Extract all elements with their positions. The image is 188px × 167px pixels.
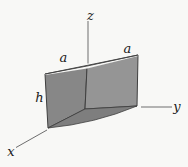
edge-label-h: h bbox=[35, 90, 43, 105]
x-axis-label: x bbox=[7, 144, 15, 159]
prism-right-face bbox=[85, 55, 138, 109]
edge-label-a-left: a bbox=[60, 50, 68, 65]
z-axis-label: z bbox=[86, 8, 94, 23]
y-axis-label: y bbox=[172, 99, 181, 114]
prism-svg: z y x a a h bbox=[0, 0, 188, 167]
edge-label-a-right: a bbox=[124, 41, 132, 56]
prism-diagram: z y x a a h bbox=[0, 0, 188, 167]
x-axis-line bbox=[16, 130, 47, 148]
